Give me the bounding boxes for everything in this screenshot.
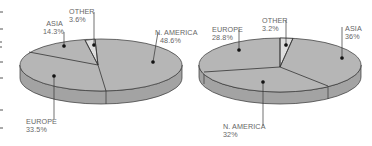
pie-charts-figure: N. AMERICA 48.6% ASIA 14.3% OTHER 3.6% E… (0, 0, 372, 146)
left-label-other: OTHER 3.6% (69, 8, 95, 24)
left-label-asia-value: 14.3% (43, 28, 63, 36)
right-label-asia-value: 36% (345, 33, 362, 41)
right-label-other-value: 3.2% (262, 25, 284, 33)
right-label-n-america-value: 32% (223, 131, 266, 139)
right-label-other: OTHER 3.2% (262, 17, 284, 33)
right-label-europe: EUROPE 28.8% (212, 26, 236, 42)
right-label-asia: ASIA 36% (345, 25, 362, 41)
left-label-other-value: 3.6% (69, 16, 95, 24)
left-label-asia: ASIA 14.3% (43, 20, 63, 36)
right-label-n-america: N. AMERICA 32% (223, 123, 266, 139)
left-label-europe: EUROPE 33.5% (26, 118, 57, 134)
left-label-europe-value: 33.5% (26, 126, 57, 134)
right-label-europe-value: 28.8% (212, 34, 236, 42)
